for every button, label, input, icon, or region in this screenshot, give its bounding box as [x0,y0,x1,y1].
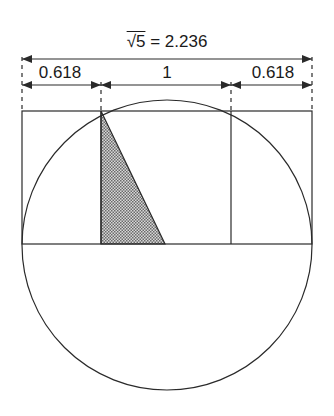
sqrt5-symbol: √5 [127,32,146,51]
golden-rectangle [22,111,312,244]
shaded-triangle [101,111,165,244]
total-value: = 2.236 [150,32,207,51]
middle-segment-label: 1 [162,63,171,83]
left-segment-label: 0.618 [39,63,82,83]
circumscribed-circle [22,100,312,390]
total-length-label: √5 = 2.236 [127,32,208,52]
right-segment-label: 0.618 [252,63,295,83]
